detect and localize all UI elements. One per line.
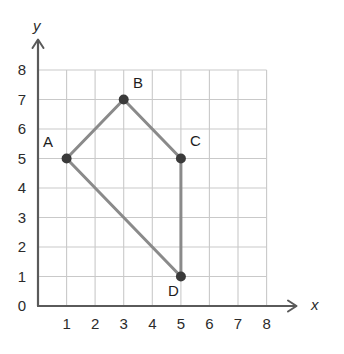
x-tick-label-5: 5 <box>171 316 191 332</box>
point-label-d: D <box>168 283 179 299</box>
y-tick-label-7: 7 <box>12 92 32 108</box>
x-tick-label-8: 8 <box>257 316 277 332</box>
coordinate-plane-figure: 8 7 6 5 4 3 2 1 0 1 2 3 4 5 6 7 8 y x A … <box>0 0 344 354</box>
point-label-b: B <box>133 75 143 91</box>
data-point-a <box>62 154 72 164</box>
data-point-c <box>176 154 186 164</box>
point-label-a: A <box>43 134 53 150</box>
grid-lines <box>38 70 267 306</box>
x-tick-label-1: 1 <box>57 316 77 332</box>
x-tick-label-6: 6 <box>199 316 219 332</box>
origin-tick-label-0: 0 <box>12 298 32 314</box>
coordinate-plane-svg <box>0 0 344 354</box>
y-tick-label-2: 2 <box>12 239 32 255</box>
y-tick-label-4: 4 <box>12 180 32 196</box>
axis-arrowheads <box>33 40 297 312</box>
x-tick-label-4: 4 <box>142 316 162 332</box>
x-tick-label-2: 2 <box>85 316 105 332</box>
x-tick-label-7: 7 <box>228 316 248 332</box>
point-label-c: C <box>190 133 201 149</box>
data-point-d <box>176 272 186 282</box>
y-tick-label-5: 5 <box>12 151 32 167</box>
y-tick-label-3: 3 <box>12 210 32 226</box>
data-point-b <box>119 95 129 105</box>
y-axis-label: y <box>33 18 41 34</box>
x-axis-label: x <box>311 297 319 313</box>
x-tick-label-3: 3 <box>114 316 134 332</box>
axes <box>38 40 296 306</box>
y-tick-label-6: 6 <box>12 121 32 137</box>
y-tick-label-1: 1 <box>12 269 32 285</box>
y-tick-label-8: 8 <box>12 62 32 78</box>
